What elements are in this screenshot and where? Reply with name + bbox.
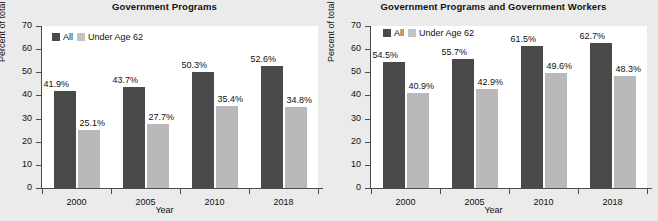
bar-value-label: 25.1% (80, 118, 106, 128)
bar-all[interactable] (521, 46, 543, 188)
bar-all[interactable] (452, 59, 474, 188)
legend-swatch-under-icon (408, 29, 416, 37)
y-axis-tick (36, 142, 41, 143)
y-axis-tick-label: 0 (337, 182, 361, 193)
bar-under-age-62[interactable] (407, 93, 429, 188)
bar-all[interactable] (54, 91, 76, 188)
bar-value-label: 27.7% (149, 112, 175, 122)
chart-panels: Government Programs Percent of total Yea… (0, 0, 658, 221)
y-axis-tick-label: 60 (8, 43, 32, 54)
y-axis-tick (36, 119, 41, 120)
y-axis-tick (36, 95, 41, 96)
x-axis-category-label: 2010 (509, 197, 578, 207)
bar-value-label: 35.4% (218, 94, 244, 104)
y-axis-tick-label: 70 (8, 20, 32, 31)
plot-wrap: All Under Age 62 706050403020100 2000200… (371, 26, 647, 188)
y-axis-tick-label: 20 (337, 136, 361, 147)
bar-under-age-62[interactable] (216, 106, 238, 188)
legend-swatch-all-icon (383, 29, 391, 37)
bar-value-label: 43.7% (113, 75, 139, 85)
legend-label-all: All (394, 28, 404, 38)
y-axis-tick (365, 95, 370, 96)
legend-item-all: All (52, 32, 73, 42)
y-axis-tick-label: 10 (8, 159, 32, 170)
y-axis-title: Percent of total (326, 1, 336, 62)
legend-item-all: All (383, 28, 404, 38)
y-axis-tick-label: 20 (8, 136, 32, 147)
y-axis-tick-label: 40 (337, 89, 361, 100)
y-axis-tick-label: 50 (8, 66, 32, 77)
y-axis-tick (365, 165, 370, 166)
legend: All Under Age 62 (52, 32, 143, 42)
x-axis-tick (509, 189, 510, 194)
y-axis-tick (365, 142, 370, 143)
y-axis-tick-label: 50 (337, 66, 361, 77)
legend-item-under-age-62: Under Age 62 (77, 32, 143, 42)
bar-under-age-62[interactable] (285, 107, 307, 188)
x-axis-tick (180, 189, 181, 194)
x-axis-tick (440, 189, 441, 194)
x-axis-category-label: 2000 (42, 197, 111, 207)
y-axis-tick-label: 10 (337, 159, 361, 170)
legend-swatch-under-icon (77, 33, 85, 41)
y-axis-tick (365, 49, 370, 50)
bar-under-age-62[interactable] (545, 73, 567, 188)
x-axis-tick (318, 189, 319, 194)
y-axis-tick-label: 40 (8, 89, 32, 100)
bar-value-label: 54.5% (373, 50, 399, 60)
bar-under-age-62[interactable] (147, 124, 169, 188)
bar-value-label: 42.9% (478, 77, 504, 87)
x-axis-category-label: 2005 (440, 197, 509, 207)
plot-wrap: All Under Age 62 706050403020100 2000200… (42, 26, 318, 188)
bar-value-label: 50.3% (182, 60, 208, 70)
bar-under-age-62[interactable] (78, 130, 100, 188)
bar-all[interactable] (192, 72, 214, 188)
y-axis-tick (36, 26, 41, 27)
legend: All Under Age 62 (383, 28, 474, 38)
legend-item-under-age-62: Under Age 62 (408, 28, 474, 38)
y-axis-tick-label: 30 (337, 113, 361, 124)
bar-all[interactable] (590, 43, 612, 188)
chart-panel-government-programs-and-workers: Government Programs and Government Worke… (329, 0, 658, 221)
bar-value-label: 49.6% (547, 61, 573, 71)
legend-label-under-age-62: Under Age 62 (419, 28, 474, 38)
bar-value-label: 61.5% (511, 34, 537, 44)
y-axis-tick (365, 188, 370, 189)
y-axis-tick-label: 70 (337, 20, 361, 31)
x-axis-tick (578, 189, 579, 194)
bar-all[interactable] (123, 87, 145, 188)
legend-label-under-age-62: Under Age 62 (88, 32, 143, 42)
legend-swatch-all-icon (52, 33, 60, 41)
bar-all[interactable] (261, 66, 283, 188)
bar-value-label: 40.9% (409, 81, 435, 91)
x-axis-category-label: 2000 (371, 197, 440, 207)
bar-value-label: 48.3% (616, 64, 642, 74)
x-axis-category-label: 2018 (578, 197, 647, 207)
bar-under-age-62[interactable] (476, 89, 498, 188)
bar-value-label: 62.7% (580, 31, 606, 41)
legend-label-all: All (63, 32, 73, 42)
bar-value-label: 34.8% (287, 95, 313, 105)
bar-value-label: 52.6% (251, 54, 277, 64)
y-axis-tick (365, 119, 370, 120)
y-axis-tick-label: 0 (8, 182, 32, 193)
y-axis-tick (365, 26, 370, 27)
x-axis-tick (249, 189, 250, 194)
chart-title: Government Programs and Government Worke… (329, 1, 658, 12)
y-axis-tick-label: 30 (8, 113, 32, 124)
x-axis-tick (371, 189, 372, 194)
y-axis-line (41, 26, 42, 189)
x-axis-tick (111, 189, 112, 194)
y-axis-line (370, 26, 371, 189)
y-axis-tick (36, 188, 41, 189)
bar-all[interactable] (383, 62, 405, 188)
y-axis-tick (36, 165, 41, 166)
x-axis-category-label: 2005 (111, 197, 180, 207)
y-axis-tick (36, 72, 41, 73)
x-axis-tick (42, 189, 43, 194)
bar-under-age-62[interactable] (614, 76, 636, 188)
x-axis-category-label: 2018 (249, 197, 318, 207)
x-axis-tick (647, 189, 648, 194)
bar-value-label: 41.9% (44, 79, 70, 89)
y-axis-tick (365, 72, 370, 73)
